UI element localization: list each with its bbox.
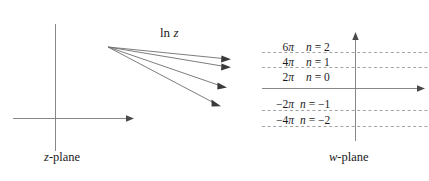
tick-label-6pi: 6π bbox=[262, 42, 294, 54]
branch-index-label-n-neg-2: n = −2 bbox=[300, 115, 330, 127]
w-plane-horizontal-axis-arrowhead bbox=[417, 85, 425, 91]
tick-label-neg-2pi: −2π bbox=[258, 99, 294, 111]
branch-index-label-n-neg-1: n = −1 bbox=[300, 99, 330, 111]
mapping-rays bbox=[108, 47, 228, 105]
complex-log-mapping-figure: 6π 4π 2π −2π −4π n = 2 n = 1 n = 0 n = −… bbox=[0, 0, 429, 181]
tick-label-4pi: 4π bbox=[262, 57, 294, 69]
mapping-ray-3-arrowhead bbox=[217, 82, 227, 89]
branch-index-label-n-0: n = 0 bbox=[306, 72, 330, 84]
map-label-ln-z: ln z bbox=[160, 26, 178, 39]
z-plane-caption: z-plane bbox=[44, 151, 80, 164]
branch-index-label-n-1: n = 1 bbox=[306, 57, 330, 69]
tick-label-neg-4pi: −4π bbox=[258, 115, 294, 127]
z-plane-horizontal-axis-arrowhead bbox=[126, 115, 134, 121]
mapping-ray-2-arrowhead bbox=[221, 64, 231, 71]
mapping-ray-4 bbox=[108, 47, 218, 105]
mapping-ray-arrowheads bbox=[212, 56, 232, 107]
w-plane-caption: w-plane bbox=[329, 151, 369, 164]
tick-label-2pi: 2π bbox=[262, 72, 294, 84]
mapping-ray-1-arrowhead bbox=[221, 56, 231, 63]
mapping-ray-4-arrowhead bbox=[212, 99, 222, 106]
branch-index-label-n-2: n = 2 bbox=[306, 42, 330, 54]
w-plane-vertical-axis-arrowhead bbox=[352, 32, 358, 40]
z-plane-axes bbox=[13, 24, 128, 151]
